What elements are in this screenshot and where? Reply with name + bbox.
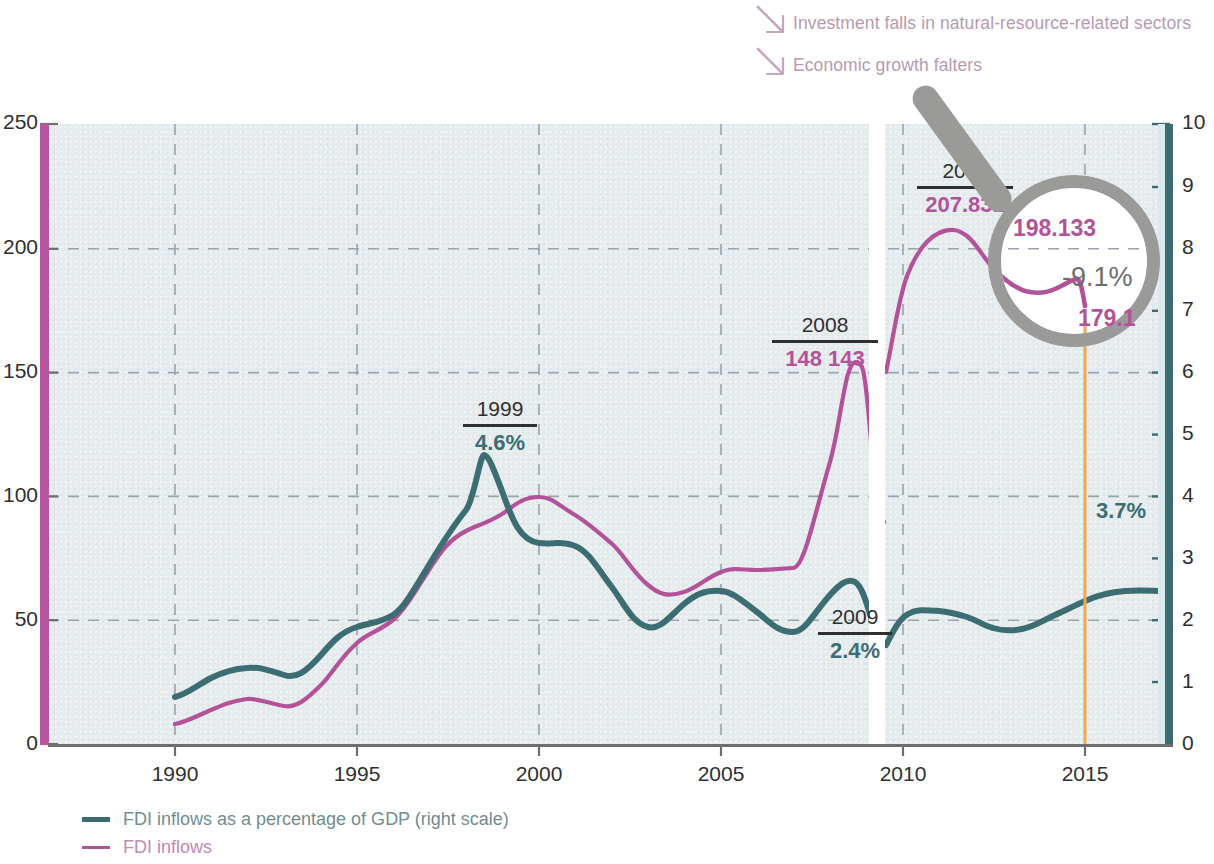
x-tick-2000: 2000: [494, 762, 584, 786]
legend-item-fdi-pct-gdp: FDI inflows as a percentage of GDP (righ…: [82, 805, 509, 833]
y-tick-50: 50: [15, 607, 38, 631]
arrow-down-right-icon: [755, 4, 793, 40]
y2-tick-9: 9: [1182, 173, 1194, 197]
y2-tick-2: 2: [1182, 607, 1194, 631]
callout-list: Investment falls in natural-resource-rel…: [755, 6, 1210, 90]
x-tick-1995: 1995: [312, 762, 402, 786]
chart-legend: FDI inflows as a percentage of GDP (righ…: [82, 805, 509, 861]
y2-tick-5: 5: [1182, 421, 1194, 445]
arrow-down-right-icon: [755, 46, 793, 82]
y2-tick-8: 8: [1182, 235, 1194, 259]
legend-swatch-pink: [82, 846, 110, 849]
annotation-1999-rule: [463, 424, 537, 427]
y-tick-100: 100: [3, 483, 38, 507]
y-tick-200: 200: [3, 235, 38, 259]
y-tick-0: 0: [26, 731, 38, 755]
annotation-2008-year: 2008: [745, 312, 905, 337]
magnifier-bottom-value: 179.1: [1078, 305, 1136, 332]
annotation-2009-rule: [818, 632, 892, 635]
y2-tick-4: 4: [1182, 483, 1194, 507]
annotation-2009: 2009 2.4%: [795, 604, 915, 664]
y-tick-150: 150: [3, 359, 38, 383]
y2-tick-1: 1: [1182, 669, 1194, 693]
annotation-2009-value: 2.4%: [795, 638, 915, 664]
y2-tick-3: 3: [1182, 545, 1194, 569]
legend-label-fdi-inflows: FDI inflows: [123, 836, 212, 858]
right-axis-bar: [1165, 124, 1173, 745]
magnifier-change-value: -9.1%: [1062, 262, 1133, 293]
legend-item-fdi-inflows: FDI inflows: [82, 833, 509, 861]
y2-tick-10: 10: [1182, 110, 1205, 134]
x-tick-1990: 1990: [130, 762, 220, 786]
magnifier-top-value: 198.133: [1013, 215, 1096, 242]
annotation-2009-year: 2009: [795, 604, 915, 629]
annotation-1999-value: 4.6%: [440, 430, 560, 456]
y2-tick-7: 7: [1182, 297, 1194, 321]
y2-tick-0: 0: [1182, 731, 1194, 755]
x-tick-2015: 2015: [1040, 762, 1130, 786]
annotation-1999-year: 1999: [440, 396, 560, 421]
annotation-1999: 1999 4.6%: [440, 396, 560, 456]
annotation-2008-rule: [772, 340, 878, 343]
callout-label-1: Economic growth falters: [793, 48, 982, 82]
callout-1: Economic growth falters: [755, 48, 1210, 90]
annotation-2008: 2008 148 143: [745, 312, 905, 372]
legend-swatch-teal: [82, 817, 110, 822]
y2-tick-6: 6: [1182, 359, 1194, 383]
x-tick-2010: 2010: [858, 762, 948, 786]
x-tick-2005: 2005: [676, 762, 766, 786]
callout-label-0: Investment falls in natural-resource-rel…: [793, 6, 1191, 40]
x-axis-line: [48, 744, 1173, 747]
annotation-2008-value: 148 143: [745, 346, 905, 372]
annotation-2015-pct: 3.7%: [1096, 498, 1146, 524]
left-axis-bar: [40, 124, 49, 745]
y-tick-250: 250: [3, 110, 38, 134]
callout-0: Investment falls in natural-resource-rel…: [755, 6, 1210, 48]
legend-label-fdi-pct-gdp: FDI inflows as a percentage of GDP (righ…: [123, 808, 509, 830]
right-axis-glow: [1158, 124, 1165, 745]
chart-root: Investment falls in natural-resource-rel…: [0, 0, 1214, 864]
